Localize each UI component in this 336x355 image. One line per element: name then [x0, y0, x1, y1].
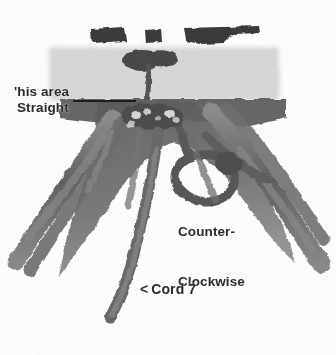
annotation-counter-line1: Counter- [178, 224, 245, 241]
knot-diagram-figure: 'his area Straight Counter- Clockwise <C… [0, 0, 336, 355]
left-chevron-icon: < [140, 282, 148, 298]
annotation-cord-7-label: Cord 7 [151, 281, 196, 297]
annotation-this-area: 'his area [14, 84, 69, 99]
annotation-cord-7: <Cord 7 [124, 266, 196, 313]
this-area-leader-line [73, 100, 136, 102]
annotation-straight: Straight [17, 100, 69, 115]
